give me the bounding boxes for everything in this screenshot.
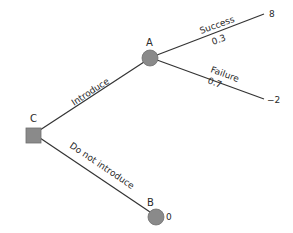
payoff-b: 0 <box>166 212 172 222</box>
node-label-a: A <box>146 37 153 48</box>
edge-label-do-not-introduce: Do not introduce <box>68 140 137 191</box>
payoff-failure: −2 <box>267 95 280 105</box>
chance-node-a <box>142 50 158 66</box>
decision-tree-diagram: C A B 0 Introduce Do not introduce Succe… <box>0 0 293 233</box>
payoff-success: 8 <box>269 9 275 19</box>
node-label-c: C <box>30 113 37 124</box>
edge-success <box>157 14 264 55</box>
edge-label-introduce: Introduce <box>70 76 112 108</box>
edge-do-not-introduce <box>40 138 150 212</box>
probability-success: 0.3 <box>210 33 227 47</box>
decision-node-c <box>26 128 41 143</box>
node-label-b: B <box>147 197 154 208</box>
chance-node-b <box>148 209 164 225</box>
